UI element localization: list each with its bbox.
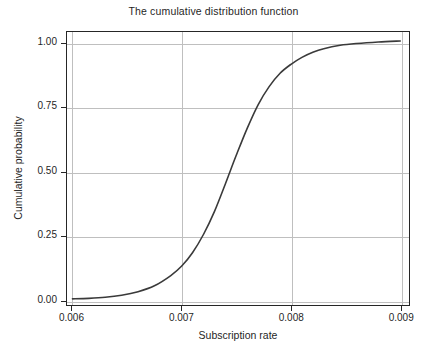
x-tick-label: 0.006: [36, 312, 106, 323]
y-tick-mark: [61, 172, 66, 173]
x-tick-mark: [291, 306, 292, 311]
y-tick-label: 0.00: [0, 294, 57, 305]
y-tick-mark: [61, 107, 66, 108]
plot-area: [66, 31, 410, 306]
y-tick-mark: [61, 43, 66, 44]
x-tick-mark: [401, 306, 402, 311]
x-tick-label: 0.008: [256, 312, 326, 323]
x-tick-label: 0.009: [366, 312, 427, 323]
x-tick-mark: [71, 306, 72, 311]
x-tick-mark: [181, 306, 182, 311]
y-tick-label: 0.75: [0, 100, 57, 111]
x-axis-label: Subscription rate: [66, 329, 410, 341]
y-tick-label: 0.25: [0, 229, 57, 240]
y-axis-label: Cumulative probability: [12, 88, 24, 248]
y-tick-mark: [61, 301, 66, 302]
y-tick-mark: [61, 236, 66, 237]
x-tick-label: 0.007: [146, 312, 216, 323]
chart-title: The cumulative distribution function: [0, 5, 427, 17]
y-tick-label: 1.00: [0, 36, 57, 47]
cdf-curve: [67, 32, 409, 305]
y-tick-label: 0.50: [0, 165, 57, 176]
cdf-chart: The cumulative distribution function 0.0…: [0, 0, 427, 355]
